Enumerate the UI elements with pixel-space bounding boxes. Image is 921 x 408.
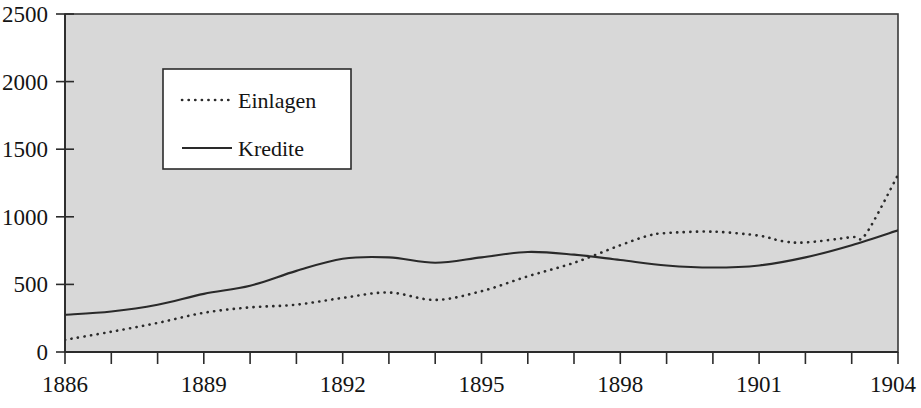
x-tick-label-1892: 1892: [320, 372, 366, 397]
y-axis-tick-labels: 2500 2000 1500 1000 500 0: [2, 2, 48, 365]
x-axis-tick-labels: 1886 1889 1892 1895 1898 1901 1904: [42, 372, 917, 397]
x-tick-label-1904: 1904: [870, 372, 917, 397]
y-tick-label-1500: 1500: [2, 137, 48, 162]
x-tick-label-1895: 1895: [459, 372, 505, 397]
y-tick-label-2000: 2000: [2, 70, 48, 95]
x-tick-label-1889: 1889: [181, 372, 227, 397]
y-tick-label-0: 0: [37, 340, 49, 365]
x-tick-label-1886: 1886: [42, 372, 88, 397]
legend-label-kredite: Kredite: [238, 136, 304, 161]
x-axis-ticks: [65, 352, 898, 364]
y-tick-label-1000: 1000: [2, 205, 48, 230]
x-tick-label-1901: 1901: [736, 372, 782, 397]
x-tick-label-1898: 1898: [597, 372, 643, 397]
chart-legend: Einlagen Kredite: [163, 69, 351, 169]
plot-area-background: [65, 14, 898, 352]
y-tick-label-500: 500: [14, 272, 49, 297]
line-chart: 2500 2000 1500 1000 500 0: [0, 0, 921, 408]
chart-figure: 2500 2000 1500 1000 500 0: [0, 0, 921, 408]
legend-label-einlagen: Einlagen: [238, 88, 316, 113]
y-tick-label-2500: 2500: [2, 2, 48, 27]
